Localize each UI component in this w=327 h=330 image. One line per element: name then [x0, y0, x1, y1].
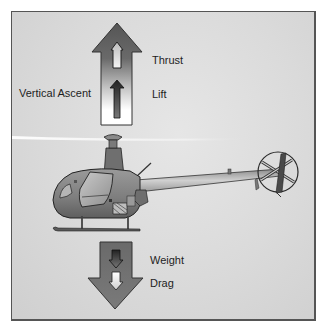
thrust-label: Thrust	[152, 55, 183, 66]
maneuver-label: Vertical Ascent	[19, 88, 91, 99]
upward-force-arrow	[92, 23, 142, 125]
helicopter-illustration	[53, 135, 298, 232]
downward-force-arrow	[88, 242, 143, 309]
weight-label: Weight	[150, 255, 184, 266]
lift-label: Lift	[152, 89, 167, 100]
main-rotor-blade	[12, 136, 250, 141]
drag-label: Drag	[150, 278, 174, 289]
